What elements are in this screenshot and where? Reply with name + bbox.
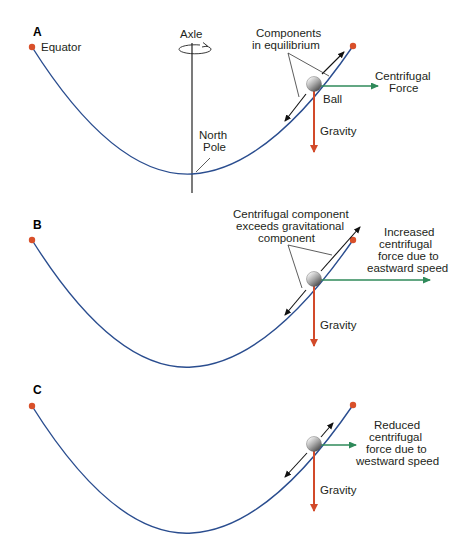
panel-c-label: C [33, 383, 42, 397]
components-label-a-1: Components [256, 27, 321, 39]
gravity-label-c: Gravity [320, 484, 357, 496]
centrifugal-label-b-2: centrifugal [379, 238, 432, 250]
centrifugal-label-c-1: Reduced [374, 419, 420, 431]
component-arrow-up-b [321, 227, 360, 271]
equator-dot-left-b [29, 237, 35, 243]
panel-a-label: A [33, 25, 42, 39]
ball-c [307, 437, 322, 452]
component-arrow-down-c [285, 453, 307, 477]
north-pole-label-1: North [199, 129, 227, 141]
centrifugal-label-b-3: force due to [378, 250, 439, 262]
ball-b [307, 272, 322, 287]
north-pole-label-2: Pole [203, 141, 226, 153]
earth-surface-curve-c [32, 405, 353, 533]
north-pole-leader [196, 158, 210, 172]
panel-c: C Gravity Reduced centrifugal force due … [29, 383, 439, 533]
components-label-b-3: component [258, 232, 316, 244]
panel-b: B Centrifugal component exceeds gravitat… [29, 208, 448, 367]
equator-dot-left-a [29, 44, 35, 50]
components-leader-a [288, 53, 329, 97]
equator-label: Equator [41, 41, 81, 53]
rotation-icon [179, 43, 211, 54]
gravity-label-b: Gravity [320, 319, 357, 331]
ball-label: Ball [323, 93, 342, 105]
centrifugal-label-c-2: centrifugal [369, 431, 422, 443]
earth-surface-curve-b [32, 240, 353, 367]
axle-label: Axle [180, 28, 202, 40]
gravity-label-a: Gravity [320, 125, 357, 137]
centrifugal-label-a-1: Centrifugal [375, 70, 431, 82]
centrifugal-label-c-3: force due to [366, 443, 427, 455]
centrifugal-label-c-4: westward speed [355, 455, 439, 467]
components-label-b-2: exceeds gravitational [236, 220, 344, 232]
panel-a: A Axle Equator North Pole Components in … [29, 25, 431, 193]
ball-a [307, 77, 322, 92]
equator-dot-right-c [350, 402, 356, 408]
panel-b-label: B [33, 218, 42, 232]
equator-dot-right-a [350, 43, 356, 49]
centrifugal-label-b-4: eastward speed [367, 262, 448, 274]
centrifugal-force-diagram: A Axle Equator North Pole Components in … [0, 0, 468, 547]
equator-dot-left-c [29, 403, 35, 409]
centrifugal-label-b-1: Increased [384, 226, 435, 238]
centrifugal-label-a-2: Force [389, 82, 418, 94]
components-label-b-1: Centrifugal component [233, 208, 350, 220]
components-label-a-2: in equilibrium [252, 39, 320, 51]
